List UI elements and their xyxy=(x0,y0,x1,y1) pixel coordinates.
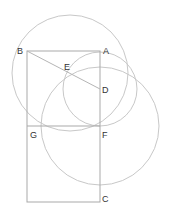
label-a: A xyxy=(103,46,109,56)
geometry-diagram: B A E D G F C xyxy=(0,0,171,215)
label-d: D xyxy=(102,85,109,95)
label-e: E xyxy=(64,62,70,72)
label-g: G xyxy=(30,130,37,140)
label-f: F xyxy=(102,130,108,140)
label-c: C xyxy=(102,194,109,204)
label-b: B xyxy=(17,46,23,56)
